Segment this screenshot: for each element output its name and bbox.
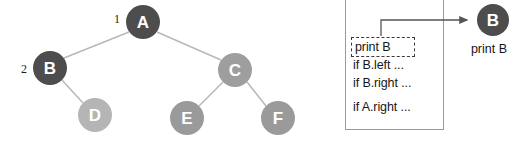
node-label-b: B — [44, 59, 56, 78]
edge-c-f — [247, 82, 266, 106]
edge-b-d — [62, 80, 83, 103]
tree-diagram-panel: A B C D E F 1 2 — [0, 0, 340, 144]
tree-node-d[interactable]: D — [78, 98, 112, 132]
edge-a-c — [157, 32, 221, 60]
node-label-d: D — [89, 106, 101, 125]
node-label-f: F — [273, 109, 283, 128]
output-node-b[interactable]: B — [477, 4, 509, 36]
arrow-path — [381, 20, 467, 36]
output-node-label: B — [487, 11, 499, 30]
call-stack-panel: print B if B.left ... if B.right ... if … — [340, 0, 531, 144]
node-label-c: C — [229, 61, 241, 80]
node-label-a: A — [137, 13, 149, 32]
tree-node-e[interactable]: E — [170, 101, 204, 135]
order-label-2: 2 — [21, 62, 27, 76]
order-label-1: 1 — [114, 12, 120, 26]
tree-node-a[interactable]: A — [126, 5, 160, 39]
output-caption: print B — [453, 42, 525, 56]
diagram-canvas: A B C D E F 1 2 — [0, 0, 531, 144]
edge-a-b — [64, 32, 129, 58]
tree-svg: A B C D E F 1 2 — [0, 0, 340, 144]
node-label-e: E — [181, 109, 192, 128]
tree-node-b[interactable]: B — [33, 51, 67, 85]
tree-node-c[interactable]: C — [218, 53, 252, 87]
output-arrow: B — [340, 0, 531, 144]
tree-node-f[interactable]: F — [261, 101, 295, 135]
edge-c-e — [199, 82, 223, 106]
